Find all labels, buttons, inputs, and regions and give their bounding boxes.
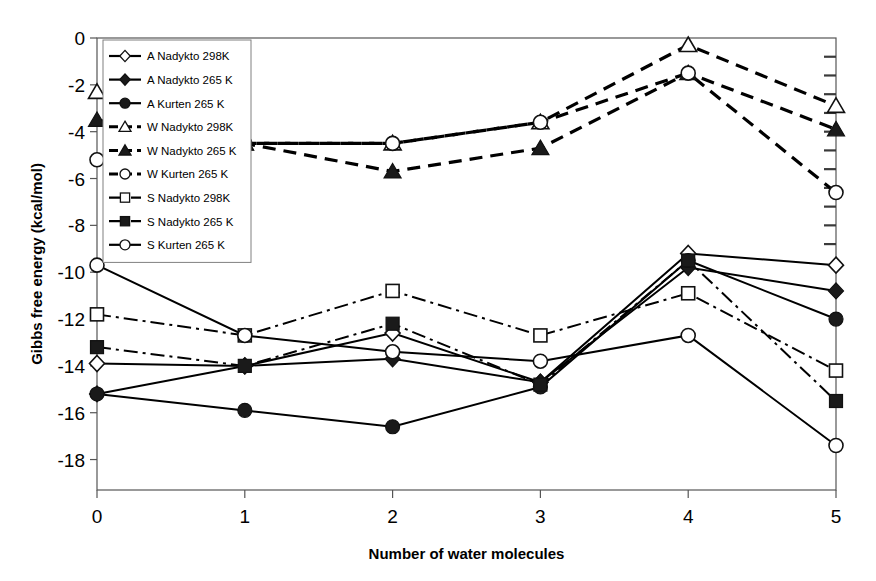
data-point-open-circle <box>386 136 400 150</box>
data-point-open-diamond <box>829 257 844 273</box>
x-axis-title: Number of water molecules <box>369 545 565 562</box>
data-point-open-triangle <box>680 37 697 52</box>
legend-marker-open-circle <box>120 169 130 179</box>
legend-item-s-nadykto-265k[interactable]: S Nadykto 265 K <box>109 216 234 228</box>
data-point-filled-square <box>386 317 399 330</box>
legend-item-s-nadykto-298k[interactable]: S Nadykto 298K <box>109 192 230 204</box>
legend-marker-filled-square <box>120 217 129 226</box>
legend-item-w-kurten-265k[interactable]: W Kurten 265 K <box>109 168 229 180</box>
data-point-open-circle <box>829 186 843 200</box>
data-point-open-circle <box>829 439 843 453</box>
series-markers-s-kurten-265k <box>90 258 843 452</box>
x-axis: 012345 <box>92 490 842 527</box>
data-point-filled-square <box>534 378 547 391</box>
legend-marker-filled-circle <box>120 98 130 108</box>
legend-item-a-kurten-265k[interactable]: A Kurten 265 K <box>109 98 225 110</box>
data-point-open-circle <box>90 258 104 272</box>
x-tick-label: 2 <box>387 506 398 527</box>
data-point-filled-square <box>682 254 695 267</box>
legend-label-a-nadykto-298k: A Nadykto 298K <box>147 50 230 62</box>
x-tick-label: 1 <box>240 506 251 527</box>
legend-label-w-nadykto-298k: W Nadykto 298K <box>147 121 234 133</box>
data-point-open-square <box>534 329 547 342</box>
chart-figure: 0-2-4-6-8-10-12-14-16-18012345Number of … <box>0 0 876 581</box>
legend-label-a-kurten-265k: A Kurten 265 K <box>147 98 225 110</box>
legend-label-a-nadykto-265k: A Nadykto 265 K <box>147 74 233 86</box>
data-point-open-circle <box>681 328 695 342</box>
y-tick-label: -2 <box>68 75 85 96</box>
legend-label-s-nadykto-265k: S Nadykto 265 K <box>147 216 234 228</box>
data-point-open-diamond <box>90 356 105 372</box>
legend-marker-open-circle <box>120 240 130 250</box>
data-point-filled-square <box>238 359 251 372</box>
y-tick-label: -4 <box>68 122 85 143</box>
y-tick-label: 0 <box>74 28 85 49</box>
data-point-open-circle <box>533 354 547 368</box>
legend-label-w-nadykto-265k: W Nadykto 265 K <box>147 145 237 157</box>
data-point-open-circle <box>681 66 695 80</box>
data-point-open-square <box>682 287 695 300</box>
y-tick-label: -12 <box>58 309 85 330</box>
x-tick-label: 4 <box>683 506 694 527</box>
data-point-open-circle <box>386 345 400 359</box>
data-point-filled-triangle <box>532 140 549 155</box>
y-tick-label: -18 <box>58 450 85 471</box>
series-markers-s-nadykto-298k <box>91 284 843 377</box>
y-tick-label: -6 <box>68 169 85 190</box>
x-tick-label: 0 <box>92 506 103 527</box>
legend-label-s-nadykto-298k: S Nadykto 298K <box>147 192 230 204</box>
data-point-open-square <box>386 284 399 297</box>
series-markers-a-nadykto-298k <box>90 245 844 390</box>
y-tick-label: -14 <box>58 356 86 377</box>
y-axis-title: Gibbs free energy (kcal/mol) <box>28 163 45 365</box>
data-point-filled-square <box>830 395 843 408</box>
y-tick-label: -10 <box>58 262 85 283</box>
data-point-filled-circle <box>238 403 252 417</box>
data-point-filled-diamond <box>829 283 844 299</box>
data-point-filled-circle <box>829 312 843 326</box>
data-point-open-triangle <box>828 98 845 113</box>
legend-label-w-kurten-265k: W Kurten 265 K <box>147 168 229 180</box>
y-minor-ticks <box>824 57 836 244</box>
legend: A Nadykto 298KA Nadykto 265 KA Kurten 26… <box>103 40 251 262</box>
series-line-a-kurten-265k <box>97 261 836 427</box>
legend-marker-open-square <box>120 193 129 202</box>
data-point-filled-circle <box>386 420 400 434</box>
x-tick-label: 3 <box>535 506 546 527</box>
legend-label-s-kurten-265k: S Kurten 265 K <box>147 239 225 251</box>
plot-area: 0-2-4-6-8-10-12-14-16-18012345Number of … <box>28 28 845 562</box>
data-point-open-square <box>830 364 843 377</box>
data-point-open-circle <box>533 115 547 129</box>
series-line-s-kurten-265k <box>97 265 836 445</box>
y-tick-label: -8 <box>68 215 85 236</box>
y-tick-label: -16 <box>58 403 85 424</box>
x-tick-label: 5 <box>831 506 842 527</box>
data-point-open-circle <box>238 328 252 342</box>
data-point-filled-circle <box>90 387 104 401</box>
data-point-filled-square <box>91 341 104 354</box>
legend-item-s-kurten-265k[interactable]: S Kurten 265 K <box>109 239 225 251</box>
series-markers-a-nadykto-265k <box>90 260 844 402</box>
data-point-open-square <box>91 308 104 321</box>
data-point-open-circle <box>90 153 104 167</box>
gibbs-free-energy-line-chart: 0-2-4-6-8-10-12-14-16-18012345Number of … <box>0 0 876 581</box>
